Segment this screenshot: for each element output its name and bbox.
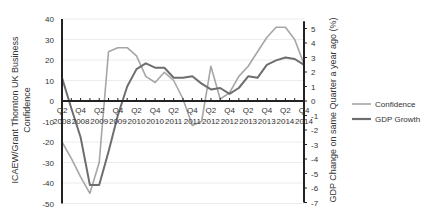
- x-tick-quarter: Q4: [261, 106, 272, 115]
- x-tick-year: 2011: [165, 117, 183, 126]
- x-tick-year: 2008: [72, 117, 90, 126]
- x-tick-quarter: Q4: [113, 106, 124, 115]
- left-tick-label: 40: [45, 15, 54, 24]
- x-tick-quarter: Q2: [168, 106, 179, 115]
- left-tick-label: -20: [42, 138, 54, 147]
- x-tick-quarter: Q4: [224, 106, 235, 115]
- x-tick-quarter: Q2: [94, 106, 105, 115]
- left-tick-label: -30: [42, 159, 54, 168]
- left-tick-label: 0: [50, 97, 55, 106]
- x-tick-year: 2009: [90, 117, 108, 126]
- x-tick-year: 2013: [258, 117, 276, 126]
- x-tick-year: 2009: [109, 117, 127, 126]
- legend-label: Confidence: [375, 100, 416, 109]
- right-tick-label: 5: [311, 25, 316, 34]
- x-tick-quarter: Q4: [75, 106, 86, 115]
- right-tick-label: 2: [311, 68, 316, 77]
- x-tick-quarter: Q4: [299, 106, 310, 115]
- right-axis-title: GDP Change on same Quarter a year ago (%…: [328, 18, 338, 203]
- x-tick-year: 2010: [128, 117, 146, 126]
- x-tick-year: 2014: [276, 117, 294, 126]
- x-tick-quarter: Q2: [57, 106, 68, 115]
- x-tick-year: 2013: [239, 117, 257, 126]
- x-tick-year: 2014: [295, 117, 313, 126]
- x-tick-quarter: Q2: [131, 106, 142, 115]
- right-tick-label: -7: [311, 199, 319, 208]
- right-tick-label: -5: [311, 170, 319, 179]
- left-axis-title: ICAEW/Grant Thornton UK Business: [10, 36, 20, 183]
- right-tick-label: -2: [311, 126, 319, 135]
- x-tick-quarter: Q2: [206, 106, 217, 115]
- left-tick-label: -40: [42, 179, 54, 188]
- axes: 403020100-10-20-30-40-50543210-1-2-3-4-5…: [42, 15, 318, 209]
- right-tick-label: -4: [311, 155, 319, 164]
- right-tick-label: -3: [311, 141, 319, 150]
- x-tick-quarter: Q2: [280, 106, 291, 115]
- left-tick-label: -50: [42, 200, 54, 209]
- right-tick-label: 4: [311, 39, 316, 48]
- left-tick-label: 30: [45, 36, 54, 45]
- x-tick-year: 2010: [146, 117, 164, 126]
- x-tick-year: 2012: [202, 117, 220, 126]
- x-tick-year: 2008: [53, 117, 71, 126]
- right-tick-label: 1: [311, 83, 316, 92]
- x-tick-quarter: Q4: [150, 106, 161, 115]
- left-axis-title-line2: Confidence: [22, 87, 32, 133]
- right-tick-label: -6: [311, 184, 319, 193]
- legend: ConfidenceGDP Growth: [352, 100, 420, 124]
- x-tick-year: 2012: [221, 117, 239, 126]
- left-tick-label: 20: [45, 56, 54, 65]
- x-tick-quarter: Q4: [187, 106, 198, 115]
- right-tick-label: 3: [311, 54, 316, 63]
- x-tick-year: 2011: [184, 117, 202, 126]
- legend-label: GDP Growth: [375, 115, 420, 124]
- right-tick-label: 0: [311, 97, 316, 106]
- x-tick-quarter: Q2: [243, 106, 254, 115]
- chart: 403020100-10-20-30-40-50543210-1-2-3-4-5…: [0, 0, 431, 221]
- left-tick-label: 10: [45, 77, 54, 86]
